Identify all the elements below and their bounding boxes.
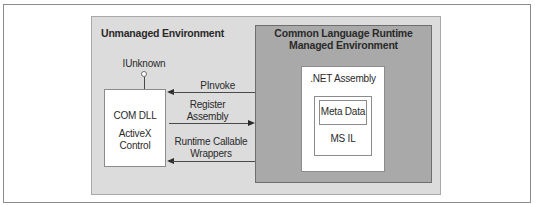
rcw-label-line2: Wrappers [170,148,252,160]
register-assembly-label: Register Assembly [175,99,240,123]
managed-environment-title: Common Language Runtime Managed Environm… [255,27,432,51]
interface-connector-line [144,77,145,89]
register-label-line2: Assembly [175,111,240,123]
register-arrow-line [169,123,249,124]
register-label-line1: Register [175,99,240,111]
pinvoke-label: PInvoke [170,80,255,92]
pinvoke-arrow-line [172,92,255,93]
msil-label: MS IL [314,133,372,145]
register-arrowhead-icon [248,120,255,126]
rcw-arrow-line [172,161,255,162]
unmanaged-environment-title: Unmanaged Environment [101,27,224,39]
rcw-label-line1: Runtime Callable [170,136,252,148]
managed-title-line2: Managed Environment [255,39,432,51]
managed-title-line1: Common Language Runtime [255,27,432,39]
activex-control-label: ActiveX Control [104,128,166,152]
iunknown-label: IUnknown [112,58,176,70]
metadata-label: Meta Data [319,106,367,118]
rcw-label: Runtime Callable Wrappers [170,136,252,160]
com-dll-label: COM DLL [104,110,166,122]
net-assembly-title: .NET Assembly [301,73,385,85]
